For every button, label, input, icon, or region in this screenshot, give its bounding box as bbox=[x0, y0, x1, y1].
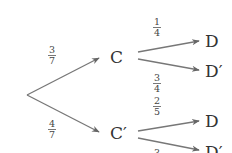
edge-c-to-d-prime bbox=[138, 59, 199, 70]
edge-c-to-d bbox=[138, 41, 199, 52]
edge-c-prime-to-d-prime bbox=[138, 138, 199, 150]
prob-c-d-numerator: 1 bbox=[154, 16, 160, 27]
probability-tree: 3 7 4 7 C C′ 1 4 3 4 2 5 3 D D′ D D′ bbox=[0, 0, 232, 153]
prob-c-prime-d-prime: 3 bbox=[154, 147, 160, 153]
node-c-prime-d: D bbox=[205, 111, 219, 131]
prob-c-prime-denominator: 7 bbox=[49, 129, 55, 140]
edge-c-prime-to-d bbox=[138, 121, 199, 131]
prob-c-prime-d: 2 5 bbox=[153, 95, 161, 117]
edge-root-to-c-prime bbox=[27, 95, 99, 132]
prob-c-prime-d-denominator: 5 bbox=[154, 106, 160, 117]
prob-c-d-prime-denominator: 4 bbox=[154, 83, 160, 94]
prob-c-numerator: 3 bbox=[49, 44, 55, 55]
prob-c-prime-d-numerator: 2 bbox=[154, 95, 160, 106]
prob-c-prime-d-prime-numerator: 3 bbox=[154, 147, 160, 153]
prob-c: 3 7 bbox=[48, 44, 56, 66]
prob-c-d-prime: 3 4 bbox=[153, 72, 161, 94]
prob-c-prime-numerator: 4 bbox=[49, 118, 55, 129]
node-c-d: D bbox=[205, 31, 219, 51]
prob-c-d-prime-numerator: 3 bbox=[154, 72, 160, 83]
prob-c-d-denominator: 4 bbox=[154, 27, 160, 38]
node-c-d-prime: D′ bbox=[205, 61, 223, 81]
edge-root-to-c bbox=[27, 58, 99, 95]
node-c-prime-d-prime: D′ bbox=[205, 142, 223, 153]
prob-c-d: 1 4 bbox=[153, 16, 161, 38]
node-c-prime: C′ bbox=[110, 123, 127, 143]
node-c: C bbox=[110, 47, 123, 67]
prob-c-denominator: 7 bbox=[49, 55, 55, 66]
prob-c-prime: 4 7 bbox=[48, 118, 56, 140]
